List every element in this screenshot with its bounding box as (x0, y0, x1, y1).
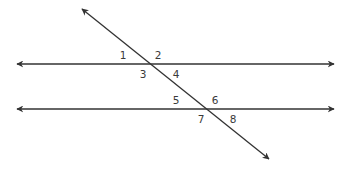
transversal-line (82, 9, 269, 159)
angle-label-5: 5 (173, 94, 180, 106)
angle-labels: 1 2 3 4 5 6 7 8 (120, 49, 237, 125)
angle-label-4: 4 (173, 68, 180, 80)
angle-label-2: 2 (155, 49, 162, 61)
angle-label-1: 1 (120, 49, 127, 61)
parallel-lines-diagram: 1 2 3 4 5 6 7 8 (0, 0, 350, 170)
angle-label-3: 3 (140, 68, 147, 80)
angle-label-8: 8 (230, 113, 237, 125)
angle-label-7: 7 (198, 113, 205, 125)
angle-label-6: 6 (212, 94, 219, 106)
